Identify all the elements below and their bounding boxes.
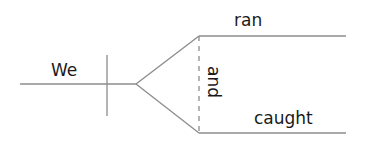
conjunction-word: and <box>204 66 224 98</box>
predicate-word-top: ran <box>234 10 262 30</box>
predicate-word-bottom: caught <box>254 108 313 128</box>
fork-lower-branch <box>136 84 199 133</box>
fork-upper-branch <box>136 36 199 84</box>
sentence-diagram: We ran caught and <box>0 0 366 142</box>
subject-word: We <box>51 60 77 80</box>
